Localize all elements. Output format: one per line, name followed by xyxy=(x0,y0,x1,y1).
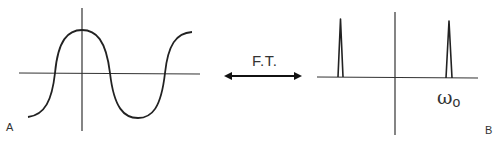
impulse-negative-omega xyxy=(338,19,343,77)
omega-symbol: ω xyxy=(437,86,453,108)
fourier-transform-label: F.T. xyxy=(252,52,277,69)
panel-b-label: B xyxy=(485,124,492,136)
impulse-positive-omega xyxy=(446,21,452,78)
fourier-transform-arrow xyxy=(224,72,302,80)
omega-zero-label: ωo xyxy=(437,86,460,110)
panel-a xyxy=(19,8,200,131)
arrowhead-right-icon xyxy=(294,72,302,80)
panel-b xyxy=(317,12,478,135)
fourier-transform-diagram xyxy=(0,0,497,143)
arrowhead-left-icon xyxy=(224,72,232,80)
panel-a-label: A xyxy=(6,121,13,133)
panel-b-x-axis xyxy=(317,77,478,78)
omega-subscript: o xyxy=(453,94,461,110)
